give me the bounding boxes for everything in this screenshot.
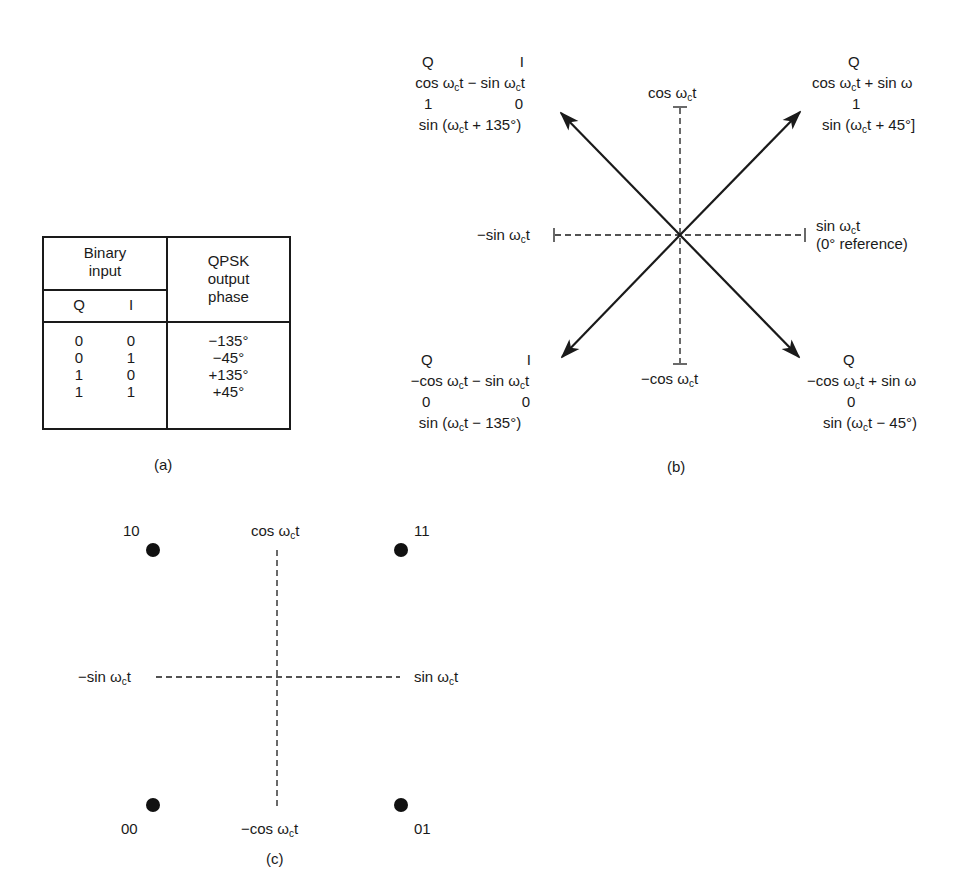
quadrant-se-label: Q I −cos ωct + sin ω 0 1 sin (ωct − 45°) bbox=[807, 349, 972, 433]
quadrant-result: sin (ωct + 135°) bbox=[400, 114, 540, 135]
quadrant-sw-label: Q I −cos ωct − sin ωct 0 0 sin (ωct − 13… bbox=[395, 349, 545, 433]
arrow-sw-icon bbox=[562, 235, 680, 357]
caption-c: (c) bbox=[266, 850, 284, 867]
point-01-icon bbox=[394, 798, 408, 812]
phasor-axis-left-label: −sin ωct bbox=[477, 226, 530, 244]
constellation-axis-up-label: cos ωct bbox=[251, 522, 299, 540]
point-label-10: 10 bbox=[123, 522, 140, 540]
constellation-axis-down-label: −cos ωct bbox=[241, 820, 298, 838]
arrow-ne-icon bbox=[680, 112, 800, 235]
caption-b: (b) bbox=[667, 458, 685, 475]
phasor-axis-right-label: sin ωct (0° reference) bbox=[816, 217, 908, 253]
point-10-icon bbox=[146, 543, 160, 557]
quadrant-nw-label: Q I cos ωct − sin ωct 1 0 sin (ωct + 135… bbox=[400, 51, 540, 135]
quadrant-expression: −cos ωct + sin ω bbox=[807, 370, 972, 391]
arrow-nw-icon bbox=[561, 113, 680, 235]
point-00-icon bbox=[146, 798, 160, 812]
phasor-axis-up-label: cos ωct bbox=[648, 84, 696, 102]
constellation-axes bbox=[156, 550, 400, 807]
i-bit: 0 bbox=[515, 93, 523, 114]
quadrant-expression: cos ωct + sin ω bbox=[812, 72, 972, 93]
i-label: I bbox=[527, 349, 531, 370]
point-label-00: 00 bbox=[121, 820, 138, 838]
q-bit: 0 bbox=[422, 391, 430, 412]
q-label: Q bbox=[848, 51, 860, 72]
quadrant-expression: −cos ωct − sin ωct bbox=[395, 370, 545, 391]
q-bit: 1 bbox=[852, 93, 860, 114]
q-bit: 1 bbox=[424, 93, 432, 114]
point-label-01: 01 bbox=[414, 820, 431, 838]
quadrant-ne-label: Q I cos ωct + sin ω 1 1 sin (ωct + 45°] bbox=[812, 51, 972, 135]
constellation-axis-left-label: −sin ωct bbox=[78, 668, 131, 686]
q-label: Q bbox=[421, 349, 433, 370]
quadrant-result: sin (ωct − 45°) bbox=[807, 412, 972, 433]
arrow-se-icon bbox=[680, 235, 799, 357]
q-bit: 0 bbox=[847, 391, 855, 412]
quadrant-result: sin (ωct − 135°) bbox=[395, 412, 545, 433]
quadrant-expression: cos ωct − sin ωct bbox=[400, 72, 540, 93]
i-bit: 0 bbox=[522, 391, 530, 412]
q-label: Q bbox=[422, 51, 434, 72]
quadrant-result: sin (ωct + 45°] bbox=[812, 114, 972, 135]
right-label-line1: sin ωct bbox=[816, 217, 908, 235]
constellation-axis-right-label: sin ωct bbox=[414, 668, 458, 686]
i-label: I bbox=[520, 51, 524, 72]
point-label-11: 11 bbox=[414, 522, 430, 540]
phasor-axis-down-label: −cos ωct bbox=[641, 370, 698, 388]
q-label: Q bbox=[843, 349, 855, 370]
right-label-line2: (0° reference) bbox=[816, 235, 908, 253]
point-11-icon bbox=[394, 543, 408, 557]
